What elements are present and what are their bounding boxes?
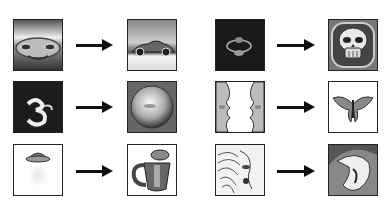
arrow-right-icon (277, 101, 315, 113)
arrow-right-icon (277, 165, 315, 177)
arrow-right-icon (76, 165, 113, 177)
output-image-teapot (127, 144, 177, 196)
arrow-right-icon (76, 39, 113, 51)
output-image-swirl (328, 144, 378, 196)
input-image-eye (215, 19, 265, 71)
arrow-right-icon (277, 39, 315, 51)
symmetric-face-profiles-icon (216, 82, 264, 132)
wood-grain-texture-icon (216, 145, 264, 195)
arrow-right-icon (76, 101, 113, 113)
input-image-digit (13, 81, 63, 133)
input-image-hat (13, 144, 63, 196)
car-side-render-icon (128, 20, 176, 70)
butterfly-render-icon (329, 82, 377, 132)
dark-digit-3-icon (14, 82, 62, 132)
sphere-render-icon (128, 82, 176, 132)
car-front-chrome-icon (14, 20, 62, 70)
input-image-woodgrain (215, 144, 265, 196)
skull-render-icon (329, 20, 377, 70)
input-image-car (13, 19, 63, 71)
output-image-car (127, 19, 177, 71)
teapot-render-icon (128, 145, 176, 195)
output-image-sphere (127, 81, 177, 133)
output-image-skull (328, 19, 378, 71)
abstract-swirl-render-icon (329, 145, 377, 195)
input-image-profiles (215, 81, 265, 133)
dark-eye-shape-icon (216, 20, 264, 70)
output-image-butterfly (328, 81, 378, 133)
hat-silhouette-icon (14, 145, 62, 195)
